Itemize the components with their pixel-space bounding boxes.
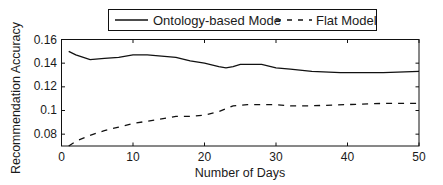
x-axis-label: Number of Days: [195, 166, 285, 180]
x-tick-label: 50: [412, 150, 426, 164]
y-tick-label: 0.1: [40, 103, 57, 117]
y-tick-label: 0.08: [34, 127, 58, 141]
x-tick-labels: 0 10 20 30 40 50: [58, 150, 426, 164]
series-group: [69, 51, 419, 146]
x-tick-label: 40: [341, 150, 355, 164]
line-chart: Ontology-based Mode Flat Model 0.16 0.14…: [0, 0, 443, 185]
y-tick-label: 0.12: [34, 79, 58, 93]
legend: Ontology-based Mode Flat Model: [109, 10, 377, 31]
y-axis-label: Recommendation Accuracy: [9, 21, 23, 174]
plot-area: [62, 40, 420, 147]
axis-ticks: [62, 40, 420, 147]
x-tick-label: 30: [269, 150, 283, 164]
series-flat-model-line: [69, 103, 419, 146]
series-ontology-based-line: [69, 51, 419, 72]
y-tick-label: 0.16: [34, 33, 58, 47]
legend-label-flat: Flat Model: [316, 13, 377, 28]
y-tick-labels: 0.16 0.14 0.12 0.1 0.08: [34, 33, 58, 141]
x-tick-label: 10: [126, 150, 140, 164]
x-tick-label: 20: [198, 150, 212, 164]
y-tick-label: 0.14: [34, 56, 58, 70]
legend-label-ontology: Ontology-based Mode: [153, 13, 281, 28]
x-tick-label: 0: [58, 150, 65, 164]
